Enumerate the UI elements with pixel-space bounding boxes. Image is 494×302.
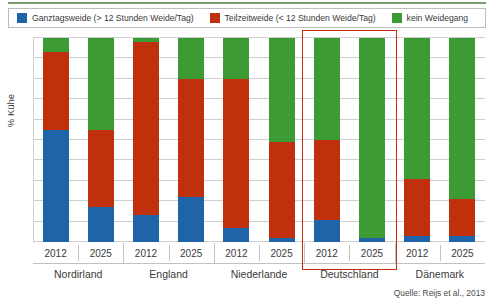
x-axis: 20122025Nordirland20122025England2012202… — [33, 243, 485, 283]
legend-label-ganztagsweide: Ganztagsweide (> 12 Stunden Weide/Tag) — [32, 14, 194, 23]
x-axis-year-england-2012: 2012 — [123, 243, 168, 263]
bar-slot — [395, 38, 440, 242]
x-axis-year-row: 20122025 — [123, 243, 213, 264]
legend-item-kein_weidegang: kein Weidegang — [392, 13, 468, 23]
bar-segment-teilzeitweide — [314, 140, 340, 220]
bar-segment-ganztagsweide — [449, 236, 475, 242]
bar-slot — [259, 38, 304, 242]
x-axis-country-dänemark: Dänemark — [395, 264, 485, 283]
bar-slot — [304, 38, 349, 242]
bar-segment-ganztagsweide — [178, 197, 204, 242]
x-axis-year-dänemark-2025: 2025 — [440, 243, 485, 263]
stacked-bar-nordirland-2025[interactable] — [88, 38, 114, 242]
bar-segment-teilzeitweide — [223, 79, 249, 228]
x-axis-year-nordirland-2025: 2025 — [78, 243, 123, 263]
bar-group-dänemark — [395, 38, 485, 242]
legend-item-teilzeitweide: Teilzeitweide (< 12 Stunden Weide/Tag) — [210, 13, 376, 23]
bar-groups — [33, 38, 485, 242]
bar-segment-kein_weidegang — [88, 38, 114, 130]
bar-segment-teilzeitweide — [43, 52, 69, 130]
bar-segment-ganztagsweide — [223, 228, 249, 242]
x-axis-group-deutschland: 20122025Deutschland — [304, 243, 394, 283]
legend-swatch-teilzeitweide — [210, 13, 220, 23]
bar-group-england — [123, 38, 213, 242]
x-axis-group-niederlande: 20122025Niederlande — [214, 243, 304, 283]
x-axis-year-niederlande-2025: 2025 — [259, 243, 304, 263]
bar-group-deutschland — [304, 38, 394, 242]
x-axis-country-nordirland: Nordirland — [33, 264, 123, 283]
x-axis-country-deutschland: Deutschland — [304, 264, 394, 283]
bar-group-niederlande — [214, 38, 304, 242]
bar-segment-teilzeitweide — [88, 130, 114, 208]
x-axis-country-niederlande: Niederlande — [214, 264, 304, 283]
bar-segment-kein_weidegang — [314, 38, 340, 140]
stacked-bar-niederlande-2012[interactable] — [223, 38, 249, 242]
legend-item-ganztagsweide: Ganztagsweide (> 12 Stunden Weide/Tag) — [17, 13, 194, 23]
x-axis-group-england: 20122025England — [123, 243, 213, 283]
stacked-bar-dänemark-2025[interactable] — [449, 38, 475, 242]
x-axis-year-row: 20122025 — [304, 243, 394, 264]
bar-segment-kein_weidegang — [223, 38, 249, 79]
x-axis-group-dänemark: 20122025Dänemark — [395, 243, 485, 283]
legend-label-teilzeitweide: Teilzeitweide (< 12 Stunden Weide/Tag) — [225, 14, 376, 23]
x-axis-year-deutschland-2012: 2012 — [304, 243, 349, 263]
y-axis-label: % Kühe — [5, 66, 16, 156]
x-axis-year-row: 20122025 — [214, 243, 304, 264]
bar-segment-kein_weidegang — [269, 38, 295, 142]
bar-slot — [440, 38, 485, 242]
bar-slot — [169, 38, 214, 242]
bar-segment-kein_weidegang — [359, 38, 385, 238]
x-axis-year-dänemark-2012: 2012 — [395, 243, 440, 263]
stacked-bar-nordirland-2012[interactable] — [43, 38, 69, 242]
bar-segment-kein_weidegang — [449, 38, 475, 199]
bar-segment-ganztagsweide — [269, 238, 295, 242]
x-axis-group-nordirland: 20122025Nordirland — [33, 243, 123, 283]
x-axis-year-england-2025: 2025 — [169, 243, 214, 263]
bar-segment-ganztagsweide — [133, 215, 159, 242]
bar-group-nordirland — [33, 38, 123, 242]
bar-segment-ganztagsweide — [43, 130, 69, 242]
x-axis-year-nordirland-2012: 2012 — [33, 243, 78, 263]
x-axis-year-row: 20122025 — [395, 243, 485, 264]
plot-area — [33, 38, 485, 242]
stacked-bar-dänemark-2012[interactable] — [404, 38, 430, 242]
bar-segment-ganztagsweide — [359, 238, 385, 242]
chart-legend: Ganztagsweide (> 12 Stunden Weide/Tag)Te… — [8, 8, 486, 28]
bar-segment-kein_weidegang — [178, 38, 204, 79]
x-axis-group-separator — [214, 243, 215, 264]
bar-segment-kein_weidegang — [43, 38, 69, 52]
stacked-bar-england-2012[interactable] — [133, 38, 159, 242]
stacked-bar-deutschland-2025[interactable] — [359, 38, 385, 242]
x-axis-country-england: England — [123, 264, 213, 283]
bar-segment-kein_weidegang — [404, 38, 430, 179]
legend-swatch-ganztagsweide — [17, 13, 27, 23]
bar-segment-teilzeitweide — [449, 199, 475, 236]
stacked-bar-niederlande-2025[interactable] — [269, 38, 295, 242]
stacked-bar-england-2025[interactable] — [178, 38, 204, 242]
legend-swatch-kein_weidegang — [392, 13, 402, 23]
bar-segment-ganztagsweide — [314, 220, 340, 242]
bar-slot — [214, 38, 259, 242]
x-axis-year-row: 20122025 — [33, 243, 123, 264]
bar-segment-teilzeitweide — [133, 42, 159, 215]
bar-segment-ganztagsweide — [88, 207, 114, 242]
chart-figure: Ganztagsweide (> 12 Stunden Weide/Tag)Te… — [0, 0, 494, 302]
bar-slot — [123, 38, 168, 242]
top-divider — [8, 2, 486, 4]
source-note: Quelle: Reijs et al., 2013 — [394, 288, 485, 298]
bar-slot — [33, 38, 78, 242]
bar-segment-teilzeitweide — [178, 79, 204, 197]
bar-segment-teilzeitweide — [269, 142, 295, 238]
bar-slot — [349, 38, 394, 242]
x-axis-year-niederlande-2012: 2012 — [214, 243, 259, 263]
bar-segment-ganztagsweide — [404, 236, 430, 242]
x-axis-group-separator — [123, 243, 124, 264]
x-axis-year-deutschland-2025: 2025 — [349, 243, 394, 263]
bar-slot — [78, 38, 123, 242]
stacked-bar-deutschland-2012[interactable] — [314, 38, 340, 242]
x-axis-group-separator — [304, 243, 305, 264]
legend-label-kein_weidegang: kein Weidegang — [407, 14, 468, 23]
bar-segment-teilzeitweide — [404, 179, 430, 236]
x-axis-group-separator — [395, 243, 396, 264]
